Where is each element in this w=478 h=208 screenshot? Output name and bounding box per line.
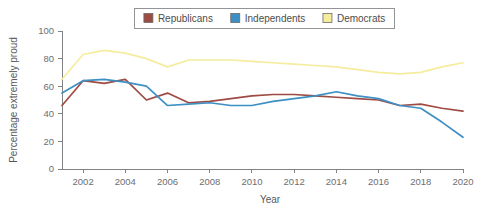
chart-legend: RepublicansIndependentsDemocrats (135, 8, 394, 28)
legend-label-republicans: Republicans (158, 13, 213, 24)
line-chart-figure: 020406080100 200220042006200820102012201… (0, 0, 478, 208)
x-tick-label: 2008 (199, 176, 220, 187)
legend-swatch-democrats (323, 14, 332, 23)
y-axis-ticks: 020406080100 (38, 25, 62, 174)
y-tick-label: 20 (43, 136, 54, 147)
legend-swatch-independents (231, 14, 240, 23)
x-axis-title: Year (260, 194, 281, 205)
x-axis-ticks: 2002200420062008201020122014201620182020 (73, 169, 474, 187)
y-axis-title: Percentage extremely proud (8, 37, 19, 163)
x-tick-label: 2014 (326, 176, 347, 187)
x-tick-label: 2010 (241, 176, 262, 187)
y-tick-label: 80 (43, 53, 54, 64)
chart-container: 020406080100 200220042006200820102012201… (0, 0, 478, 208)
series-line-independents (62, 79, 463, 137)
x-tick-label: 2004 (115, 176, 136, 187)
y-tick-label: 40 (43, 108, 54, 119)
data-series-group (62, 50, 463, 137)
y-tick-label: 60 (43, 81, 54, 92)
legend-swatch-republicans (144, 14, 153, 23)
x-tick-label: 2002 (73, 176, 94, 187)
x-axis: 2002200420062008201020122014201620182020 (62, 169, 474, 187)
x-tick-label: 2016 (368, 176, 389, 187)
x-tick-label: 2012 (284, 176, 305, 187)
legend-label-democrats: Democrats (337, 13, 385, 24)
series-line-democrats (62, 50, 463, 79)
y-tick-label: 0 (49, 163, 54, 174)
x-tick-label: 2006 (157, 176, 178, 187)
x-tick-label: 2018 (410, 176, 431, 187)
x-tick-label: 2020 (452, 176, 473, 187)
y-axis: 020406080100 (38, 25, 62, 174)
y-tick-label: 100 (38, 25, 54, 36)
legend-label-independents: Independents (245, 13, 306, 24)
